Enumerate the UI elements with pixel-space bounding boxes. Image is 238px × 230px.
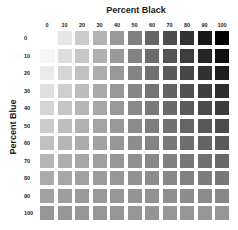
swatch-cell <box>180 136 194 150</box>
swatch-cell <box>58 189 72 203</box>
y-tick-label: 60 <box>24 140 38 146</box>
swatch-cell <box>58 66 72 80</box>
swatch-cell <box>75 31 89 45</box>
swatch-cell <box>58 136 72 150</box>
swatch-cell <box>128 31 142 45</box>
swatch-cell <box>198 206 212 220</box>
swatch-cell <box>145 66 159 80</box>
x-tick-label: 70 <box>161 22 178 28</box>
x-axis-title: Percent Black <box>40 5 232 15</box>
swatch-cell <box>110 136 124 150</box>
swatch-cell <box>93 136 107 150</box>
swatch-cell <box>40 171 54 185</box>
swatch-cell <box>110 154 124 168</box>
swatch-cell <box>93 154 107 168</box>
swatch-cell <box>110 49 124 63</box>
swatch-cell <box>145 31 159 45</box>
swatch-cell <box>75 154 89 168</box>
swatch-cell <box>58 49 72 63</box>
x-tick-label: 40 <box>109 22 126 28</box>
swatch-cell <box>93 101 107 115</box>
swatch-cell <box>40 84 54 98</box>
swatch-cell <box>180 49 194 63</box>
swatch-cell <box>93 66 107 80</box>
x-tick-label: 60 <box>144 22 161 28</box>
swatch-cell <box>58 171 72 185</box>
swatch-cell <box>215 189 229 203</box>
swatch-cell <box>198 84 212 98</box>
swatch-cell <box>128 101 142 115</box>
swatch-cell <box>93 171 107 185</box>
y-tick-label: 10 <box>24 53 38 59</box>
swatch-cell <box>75 66 89 80</box>
swatch-cell <box>145 136 159 150</box>
swatch-cell <box>110 31 124 45</box>
swatch-cell <box>145 171 159 185</box>
swatch-cell <box>110 119 124 133</box>
swatch-cell <box>198 119 212 133</box>
swatch-cell <box>75 171 89 185</box>
swatch-cell <box>40 154 54 168</box>
swatch-cell <box>40 189 54 203</box>
swatch-cell <box>93 206 107 220</box>
x-tick-label: 80 <box>179 22 196 28</box>
y-tick-label: 90 <box>24 193 38 199</box>
swatch-cell <box>215 84 229 98</box>
swatch-cell <box>180 171 194 185</box>
swatch-cell <box>215 154 229 168</box>
swatch-cell <box>40 136 54 150</box>
swatch-cell <box>145 189 159 203</box>
swatch-cell <box>215 101 229 115</box>
swatch-cell <box>93 189 107 203</box>
swatch-cell <box>75 101 89 115</box>
swatch-cell <box>40 66 54 80</box>
swatch-cell <box>75 206 89 220</box>
swatch-cell <box>180 206 194 220</box>
x-tick-label: 20 <box>74 22 91 28</box>
swatch-cell <box>58 206 72 220</box>
swatch-cell <box>128 206 142 220</box>
swatch-cell <box>75 119 89 133</box>
swatch-cell <box>58 101 72 115</box>
swatch-cell <box>163 136 177 150</box>
swatch-cell <box>58 84 72 98</box>
y-tick-label: 70 <box>24 158 38 164</box>
swatch-cell <box>40 206 54 220</box>
x-tick-label: 0 <box>39 22 56 28</box>
swatch-cell <box>163 66 177 80</box>
swatch-cell <box>198 189 212 203</box>
swatch-cell <box>128 171 142 185</box>
y-tick-label: 80 <box>24 175 38 181</box>
swatch-cell <box>110 66 124 80</box>
swatch-cell <box>180 119 194 133</box>
swatch-cell <box>128 49 142 63</box>
swatch-cell <box>145 154 159 168</box>
swatch-cell <box>215 31 229 45</box>
swatch-cell <box>110 84 124 98</box>
swatch-cell <box>163 171 177 185</box>
swatch-cell <box>145 101 159 115</box>
swatch-cell <box>110 206 124 220</box>
swatch-cell <box>58 119 72 133</box>
swatch-cell <box>75 189 89 203</box>
swatch-cell <box>163 49 177 63</box>
swatch-cell <box>145 49 159 63</box>
swatch-cell <box>40 49 54 63</box>
swatch-cell <box>215 66 229 80</box>
swatch-cell <box>128 154 142 168</box>
x-tick-label: 30 <box>91 22 108 28</box>
swatch-cell <box>180 154 194 168</box>
swatch-cell <box>163 119 177 133</box>
swatch-cell <box>145 119 159 133</box>
swatch-cell <box>93 84 107 98</box>
swatch-cell <box>75 136 89 150</box>
swatch-cell <box>93 31 107 45</box>
swatch-cell <box>128 84 142 98</box>
x-tick-label: 10 <box>56 22 73 28</box>
swatch-cell <box>198 101 212 115</box>
swatch-cell <box>215 49 229 63</box>
y-tick-label: 50 <box>24 123 38 129</box>
y-tick-label: 30 <box>24 88 38 94</box>
swatch-cell <box>198 66 212 80</box>
swatch-cell <box>215 136 229 150</box>
